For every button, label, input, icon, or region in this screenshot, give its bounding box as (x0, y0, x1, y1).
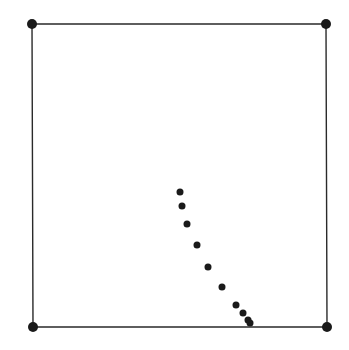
corner-dot-bottom-right (322, 322, 332, 332)
path-point-8 (240, 310, 247, 317)
point-sequence (177, 189, 254, 327)
corner-dot-top-right (321, 19, 331, 29)
diagram-canvas (0, 0, 349, 350)
path-point-5 (205, 264, 212, 271)
path-point-4 (194, 242, 201, 249)
path-point-10 (247, 320, 254, 327)
path-point-1 (177, 189, 184, 196)
path-point-2 (179, 203, 186, 210)
corner-dot-bottom-left (28, 322, 38, 332)
corner-vertices (27, 19, 332, 332)
path-point-6 (219, 284, 226, 291)
path-point-7 (233, 302, 240, 309)
path-point-3 (184, 221, 191, 228)
corner-dot-top-left (27, 19, 37, 29)
square-outline (32, 24, 327, 327)
